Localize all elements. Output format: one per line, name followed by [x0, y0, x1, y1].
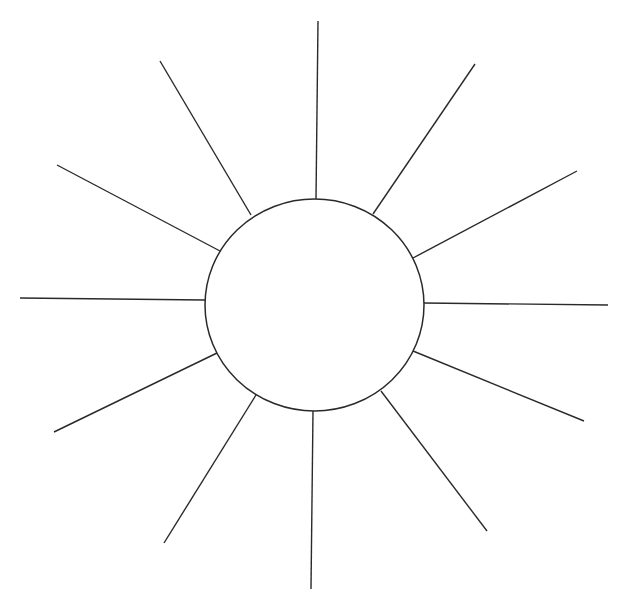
ray-line-left-upper — [57, 165, 220, 251]
ray-line-lower-right — [381, 391, 487, 531]
ray-line-left-lower — [54, 353, 217, 432]
ray-line-lower-left — [164, 395, 256, 543]
ray-line-bottom — [311, 411, 313, 589]
ray-line-right — [424, 303, 608, 305]
spider-diagram — [0, 0, 619, 609]
ray-line-left — [20, 298, 205, 300]
ray-line-right-lower — [413, 351, 584, 421]
ray-line-top — [316, 21, 318, 199]
ray-line-upper-right — [373, 64, 475, 214]
ray-line-right-upper — [413, 171, 577, 258]
center-circle — [205, 199, 424, 411]
ray-line-upper-left — [160, 61, 251, 215]
